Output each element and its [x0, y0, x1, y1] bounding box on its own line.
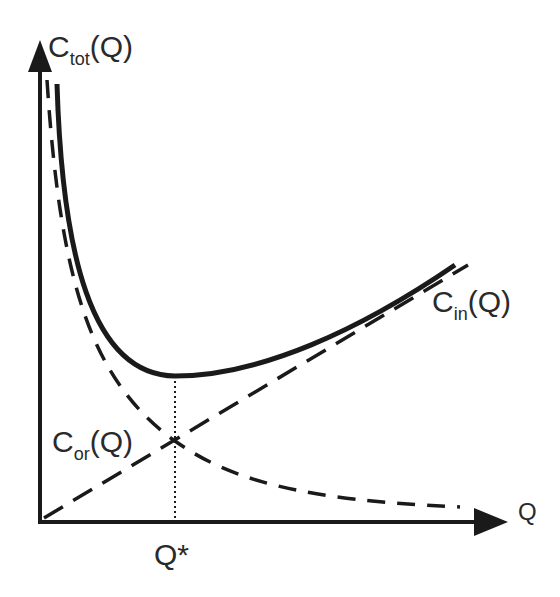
c-in-label: Cin(Q): [432, 285, 511, 319]
x-axis-arrowhead: [474, 508, 508, 536]
y-axis-label: Ctot(Q): [48, 30, 133, 64]
c-or-label: Cor(Q): [52, 425, 133, 459]
q-star-label: Q*: [154, 538, 189, 572]
c-tot-curve: [57, 84, 455, 376]
x-axis-label: Q: [518, 498, 537, 526]
